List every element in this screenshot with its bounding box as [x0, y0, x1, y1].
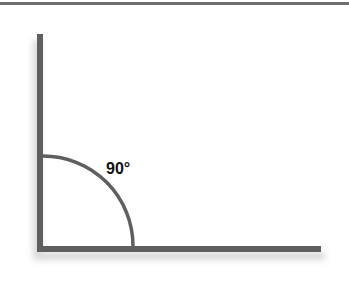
shadow [33, 40, 325, 260]
horizontal-ray [37, 246, 321, 252]
right-angle-diagram [0, 0, 349, 283]
angle-label: 90° [106, 160, 130, 178]
vertical-ray [37, 34, 43, 252]
